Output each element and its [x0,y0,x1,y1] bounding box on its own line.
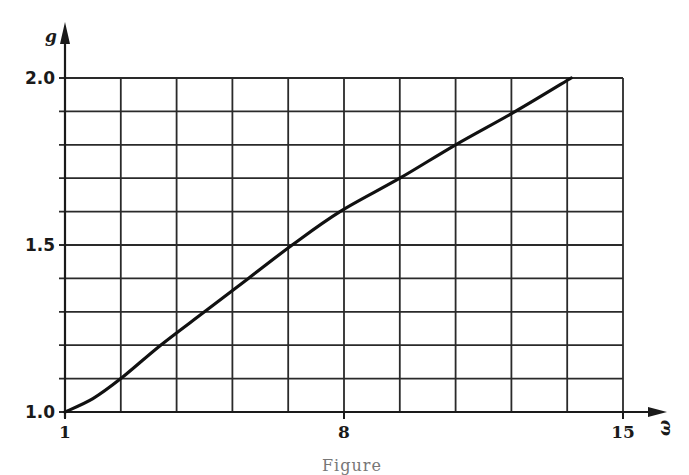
axes [60,22,667,419]
y-tick-label: 2.0 [25,68,55,88]
grid-lines [59,78,623,412]
x-tick-label: 8 [338,422,350,442]
x-axis-label: ω [654,420,674,436]
figure-caption: Figure [322,456,382,475]
x-tick-label: 15 [611,422,635,442]
y-axis-label: g [45,26,57,46]
x-tick-label: 1 [59,422,71,442]
y-tick-label: 1.5 [25,235,55,255]
y-tick-label: 1.0 [25,402,55,422]
x-axis-arrow-icon [648,407,667,417]
y-axis-arrow-icon [60,22,70,44]
tick-labels: 1.01.52.01815gω [25,26,674,442]
